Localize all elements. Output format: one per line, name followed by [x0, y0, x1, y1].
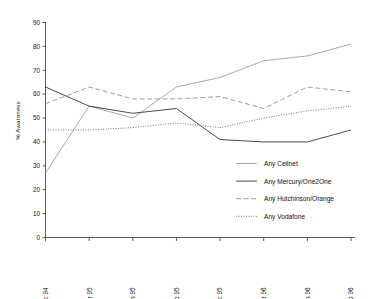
x-tick-label: Apr-Jun 96: [304, 287, 312, 299]
series-line-any-vodafone: [46, 106, 352, 130]
chart-legend: Any CellnetAny Mercury/One2OneAny Hutchi…: [236, 160, 334, 221]
legend-label: Any Vodafone: [264, 213, 305, 221]
line-chart: % Awareness 0102030405060708090 Oct-Dec …: [0, 0, 371, 299]
legend-label: Any Cellnet: [264, 160, 298, 168]
x-tick-label: Apr-Jun 95: [129, 287, 137, 299]
x-tick-label: Oct-Dec 95: [216, 287, 223, 299]
y-tick-label: 60: [33, 90, 41, 97]
series-line-any-mercury-one2one: [46, 87, 352, 142]
y-tick-label: 30: [33, 162, 41, 169]
y-tick-label: 90: [33, 19, 41, 26]
series-layer: [46, 44, 352, 173]
series-line-any-cellnet: [46, 44, 352, 173]
y-tick-label: 10: [33, 210, 41, 217]
x-tick-label: Jul-Sep 96: [347, 287, 355, 299]
y-tick-label: 40: [33, 138, 41, 145]
x-tick-label: Jan-Mar 96: [260, 287, 267, 299]
x-tick-label: Oct-Dec 94: [42, 287, 49, 299]
x-tick-label: Jan-Mar 95: [86, 287, 93, 299]
y-tick-label: 70: [33, 67, 41, 74]
series-line-any-hutchinson-orange: [46, 87, 352, 109]
y-tick-label: 80: [33, 43, 41, 50]
y-tick-label: 50: [33, 114, 41, 121]
y-tick-label: 0: [36, 234, 40, 241]
x-axis: Oct-Dec 94Jan-Mar 95Apr-Jun 95Jul-Sep 95…: [42, 238, 356, 299]
legend-label: Any Hutchinson/Orange: [264, 195, 334, 203]
plot-area: 0102030405060708090 Oct-Dec 94Jan-Mar 95…: [0, 0, 371, 299]
y-axis: 0102030405060708090: [33, 19, 46, 241]
y-tick-label: 20: [33, 186, 41, 193]
x-tick-label: Jul-Sep 95: [173, 287, 181, 299]
legend-label: Any Mercury/One2One: [264, 178, 332, 186]
